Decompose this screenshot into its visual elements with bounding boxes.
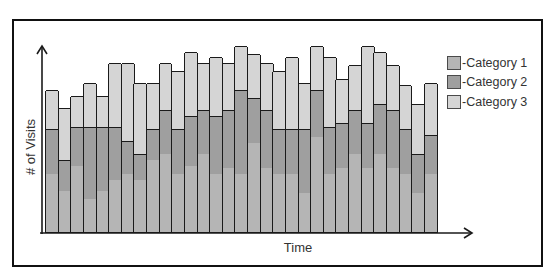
bar-segment-category-2 xyxy=(97,127,109,191)
bar-segment-category-1 xyxy=(425,174,437,232)
bar-segment-category-3 xyxy=(198,63,210,110)
bar-segment-category-1 xyxy=(235,174,247,232)
bar-segment-category-2 xyxy=(160,110,172,155)
bar-segment-category-2 xyxy=(235,90,247,173)
x-axis-label: Time xyxy=(284,240,312,255)
legend: -Category 1 -Category 2 -Category 3 xyxy=(447,53,527,112)
bar-segment-category-3 xyxy=(400,85,412,130)
bar-segment-category-1 xyxy=(84,199,96,232)
bar-segment-category-1 xyxy=(374,154,386,232)
bar-segment-category-1 xyxy=(198,154,210,232)
bar-segment-category-2 xyxy=(362,123,374,168)
bar-segment-category-3 xyxy=(235,46,247,91)
bar-segment-category-2 xyxy=(374,104,386,154)
bar-segment-category-2 xyxy=(46,129,58,174)
bar-segment-category-2 xyxy=(84,127,96,199)
bar-segment-category-3 xyxy=(46,90,58,129)
bar-segment-category-1 xyxy=(412,193,424,232)
bar-segment-category-2 xyxy=(387,110,399,168)
bar-segment-category-2 xyxy=(185,116,197,166)
bar-segment-category-1 xyxy=(109,180,121,232)
bar-segment-category-1 xyxy=(400,174,412,232)
bar-segment-category-2 xyxy=(210,116,222,174)
bar-segment-category-1 xyxy=(185,166,197,232)
bar-segment-category-2 xyxy=(223,110,235,168)
bar-segment-category-3 xyxy=(412,104,424,154)
bar-segment-category-3 xyxy=(336,79,348,124)
bar-segment-category-3 xyxy=(185,52,197,116)
bar-segment-category-3 xyxy=(324,57,336,127)
bar-segment-category-2 xyxy=(122,141,134,174)
legend-label: -Category 2 xyxy=(462,75,527,89)
bar-segment-category-3 xyxy=(147,83,159,130)
bar-segment-category-2 xyxy=(109,127,121,179)
legend-item-category-3: -Category 3 xyxy=(447,92,527,112)
bar-segment-category-2 xyxy=(324,127,336,174)
legend-label: -Category 1 xyxy=(462,56,527,70)
bar-segment-category-1 xyxy=(59,191,71,232)
x-axis-arrow-icon xyxy=(464,228,472,238)
bar-segment-category-3 xyxy=(299,83,311,130)
bar-segment-category-2 xyxy=(412,154,424,193)
bar-segment-category-2 xyxy=(336,123,348,168)
y-axis-label: # of Visits xyxy=(23,119,38,175)
legend-label: -Category 3 xyxy=(462,95,527,109)
bar-segment-category-3 xyxy=(387,65,399,110)
bar-segment-category-3 xyxy=(122,63,134,141)
bar-segment-category-2 xyxy=(261,110,273,168)
bar-segment-category-1 xyxy=(299,193,311,232)
bar-segment-category-1 xyxy=(362,168,374,232)
bar-segment-category-1 xyxy=(210,174,222,232)
bar-segment-category-1 xyxy=(46,174,58,232)
bar-segment-category-2 xyxy=(198,110,210,155)
bar-segment-category-2 xyxy=(286,129,298,174)
legend-swatch-icon xyxy=(447,75,461,89)
bar-segment-category-2 xyxy=(147,129,159,160)
bar-segment-category-1 xyxy=(71,166,83,232)
bar-segment-category-3 xyxy=(374,52,386,104)
bar-segment-category-1 xyxy=(324,174,336,232)
bar-segment-category-1 xyxy=(336,168,348,232)
bar-segment-category-3 xyxy=(97,96,109,127)
bar-segment-category-3 xyxy=(172,71,184,129)
bar-segment-category-3 xyxy=(84,83,96,128)
bar-segment-category-1 xyxy=(349,154,361,232)
bar-segment-category-3 xyxy=(362,46,374,124)
bar-segment-category-1 xyxy=(134,180,146,232)
bar-segment-category-2 xyxy=(311,90,323,137)
bar-segment-category-1 xyxy=(387,168,399,232)
bar-segment-category-3 xyxy=(160,63,172,110)
bar-segment-category-2 xyxy=(299,129,311,193)
bar-segment-category-1 xyxy=(147,160,159,232)
legend-swatch-icon xyxy=(447,56,461,70)
legend-item-category-1: -Category 1 xyxy=(447,53,527,73)
bar-segment-category-3 xyxy=(134,83,146,155)
bar-segment-category-3 xyxy=(210,57,222,115)
bar-segment-category-2 xyxy=(134,154,146,179)
bar-segment-category-3 xyxy=(71,96,83,127)
bar-segment-category-3 xyxy=(273,71,285,129)
bar-segment-category-3 xyxy=(59,108,71,160)
bar-segment-category-1 xyxy=(273,174,285,232)
bar-segment-category-3 xyxy=(109,63,121,127)
legend-item-category-2: -Category 2 xyxy=(447,73,527,93)
bar-segment-category-2 xyxy=(59,160,71,191)
bar-segment-category-2 xyxy=(273,129,285,174)
bar-segment-category-2 xyxy=(71,127,83,166)
bar-segment-category-1 xyxy=(261,168,273,232)
legend-swatch-icon xyxy=(447,95,461,109)
bar-segment-category-1 xyxy=(286,174,298,232)
plot-area: # of Visits Time -Category 1 -Category 2… xyxy=(0,0,556,275)
bar-segment-category-3 xyxy=(248,54,260,99)
bar-segment-category-1 xyxy=(122,174,134,232)
bar-segment-category-1 xyxy=(223,168,235,232)
bar-segment-category-2 xyxy=(425,135,437,174)
bar-segment-category-3 xyxy=(223,63,235,110)
bar-segment-category-1 xyxy=(172,174,184,232)
bar-segment-category-1 xyxy=(248,143,260,232)
y-axis-arrow-icon xyxy=(37,46,47,54)
bar-segment-category-2 xyxy=(248,98,260,143)
bar-segment-category-1 xyxy=(97,191,109,232)
bar-segment-category-3 xyxy=(311,46,323,91)
bar-segment-category-2 xyxy=(172,129,184,174)
